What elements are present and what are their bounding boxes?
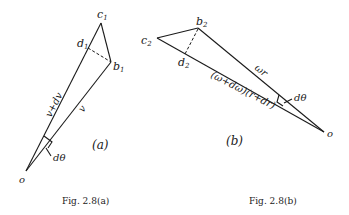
figure-a: c1 d1 b1 o v+dv v dθ (a) <box>19 8 125 185</box>
label-omega-r: ωr <box>253 62 271 79</box>
label-omega-plus-domega: (ω+dω)(r+dr) <box>209 69 277 111</box>
panel-label-b: (b) <box>226 134 243 148</box>
label-b2: b2 <box>196 15 208 29</box>
angle-leader-a <box>46 148 51 156</box>
angle-marker-b <box>277 95 283 106</box>
figure-b: c2 b2 d2 o ωr (ω+dω)(r+dr) dθ (b) <box>141 15 333 148</box>
label-d2: d2 <box>178 56 190 70</box>
panel-label-a: (a) <box>92 138 109 152</box>
side-c1-b1 <box>101 23 111 62</box>
label-dtheta-b: dθ <box>294 92 306 103</box>
label-b1: b1 <box>113 60 125 74</box>
side-v <box>26 62 111 171</box>
label-v: v <box>76 103 88 115</box>
label-v-plus-dv: v+dv <box>43 90 65 119</box>
label-dtheta-a: dθ <box>53 152 65 163</box>
dashed-b2-d2 <box>185 29 198 54</box>
label-c1: c1 <box>97 8 108 22</box>
label-o-a: o <box>19 174 25 185</box>
caption-b: Fig. 2.8(b) <box>249 196 297 206</box>
caption-a: Fig. 2.8(a) <box>62 196 109 206</box>
side-c2-b2 <box>157 28 198 38</box>
label-o-b: o <box>327 128 333 139</box>
label-d1: d1 <box>77 37 89 51</box>
figure-canvas: c1 d1 b1 o v+dv v dθ (a) c2 b2 d2 o ωr (… <box>0 0 349 215</box>
label-c2: c2 <box>141 34 152 48</box>
